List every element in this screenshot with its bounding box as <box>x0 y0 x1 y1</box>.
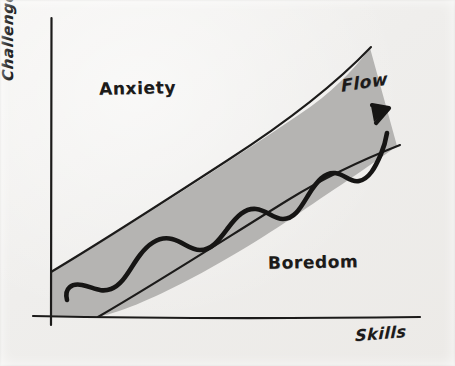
y-axis-line <box>51 18 52 325</box>
diagram-drawing <box>0 0 455 366</box>
y-axis-label: Challenges <box>0 0 17 82</box>
region-label-boredom: Boredom <box>268 251 359 273</box>
x-axis-line <box>33 316 420 318</box>
flow-diagram-figure: Challenges Anxiety Flow Boredom Skills <box>0 0 455 366</box>
region-label-anxiety: Anxiety <box>99 77 176 99</box>
